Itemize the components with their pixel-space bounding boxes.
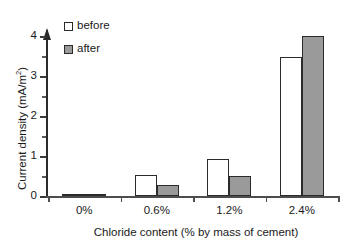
legend-item-before: before	[64, 20, 174, 32]
y-axis-minor-tick-mark	[42, 176, 46, 178]
bar-before-24	[280, 57, 302, 196]
y-axis-title-tail: )	[16, 67, 28, 71]
bar-chart-figure: Current density (mA/m2) 01234 0%0.6%1.2%…	[0, 0, 362, 248]
y-axis-title-superscript: 2	[14, 71, 23, 75]
y-axis-minor-tick-mark	[42, 96, 46, 98]
y-axis-tick-label: 3	[31, 70, 37, 82]
y-axis-tick-label: 0	[31, 190, 37, 202]
legend-item-after: after	[64, 43, 174, 55]
x-axis-tick-mark	[193, 196, 195, 202]
y-axis-tick-mark	[40, 156, 46, 158]
legend-label-before: before	[77, 20, 110, 32]
bar-after-24	[302, 36, 324, 196]
bar-after-06	[157, 185, 179, 196]
y-axis-minor-tick-mark	[42, 136, 46, 138]
y-axis-title-main: Current density (mA/m	[16, 75, 28, 190]
y-axis-tick-mark	[40, 116, 46, 118]
x-axis-category-label-0: 0%	[76, 204, 93, 216]
y-axis-tick-label: 4	[31, 30, 37, 42]
y-axis-tick-mark	[40, 36, 46, 38]
legend-swatch-before-icon	[64, 22, 73, 31]
legend-label-after: after	[77, 43, 100, 55]
x-axis-category-label-24: 2.4%	[289, 204, 315, 216]
bar-before-12	[207, 159, 229, 196]
x-axis-category-label-06: 0.6%	[144, 204, 170, 216]
y-axis-title: Current density (mA/m2)	[14, 0, 30, 190]
bar-after-0	[84, 194, 106, 197]
bar-before-06	[135, 175, 157, 196]
bar-before-0	[62, 194, 84, 197]
x-axis-tick-mark	[48, 196, 50, 202]
y-axis-tick-mark	[40, 76, 46, 78]
bar-after-12	[229, 176, 251, 196]
x-axis-line	[46, 196, 338, 198]
y-axis-tick-mark	[40, 196, 46, 198]
x-axis-tick-mark	[338, 196, 340, 202]
x-axis-tick-mark	[266, 196, 268, 202]
y-axis-minor-tick-mark	[42, 56, 46, 58]
legend: before after	[64, 20, 174, 66]
y-axis-tick-label: 1	[31, 150, 37, 162]
y-axis-tick-label: 2	[31, 110, 37, 122]
x-axis-title: Chloride content (% by mass of cement)	[46, 226, 346, 238]
x-axis-category-label-12: 1.2%	[216, 204, 242, 216]
x-axis-tick-mark	[121, 196, 123, 202]
legend-swatch-after-icon	[64, 45, 73, 54]
